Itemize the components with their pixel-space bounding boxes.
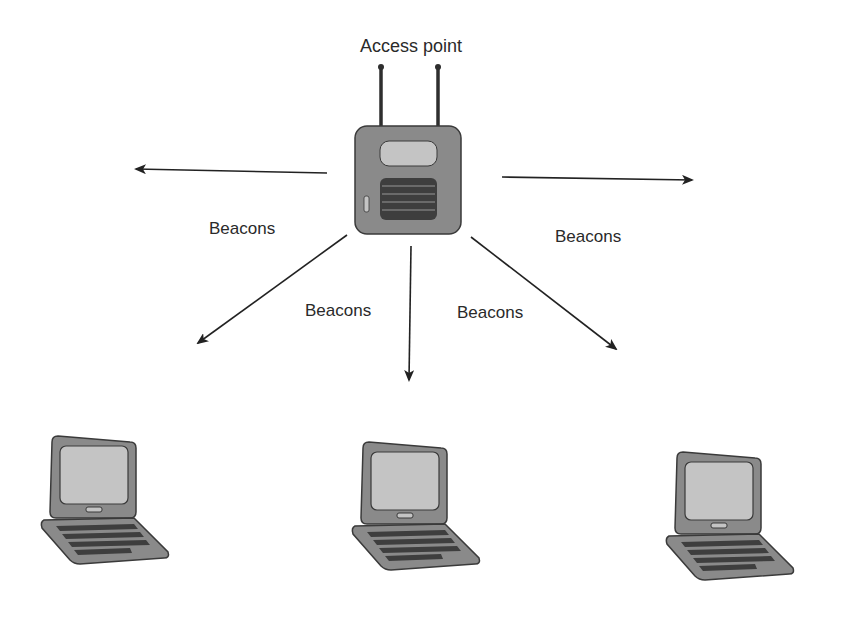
laptop-client-3 [666, 452, 793, 580]
laptop-icon [41, 436, 168, 564]
wireless-access-point-icon [355, 64, 461, 234]
arrow-right [502, 177, 692, 180]
laptop-client-1 [41, 436, 168, 564]
arrow-down-right [471, 237, 616, 349]
beacons-label-lower-right: Beacons [457, 303, 523, 322]
beacons-label-right: Beacons [555, 227, 621, 246]
beacons-label-left: Beacons [209, 219, 275, 238]
access-point-label: Access point [360, 36, 462, 56]
arrow-down-left [198, 235, 347, 343]
beacons-label-lower-left: Beacons [305, 301, 371, 320]
laptop-icon [666, 452, 793, 580]
laptop-icon [352, 442, 479, 570]
arrow-left [136, 169, 327, 173]
laptop-client-2 [352, 442, 479, 570]
arrow-down [409, 246, 411, 380]
beacon-diagram: Access point Beacons Beacons Beacons Bea… [0, 0, 845, 617]
access-point: Access point [355, 36, 462, 234]
